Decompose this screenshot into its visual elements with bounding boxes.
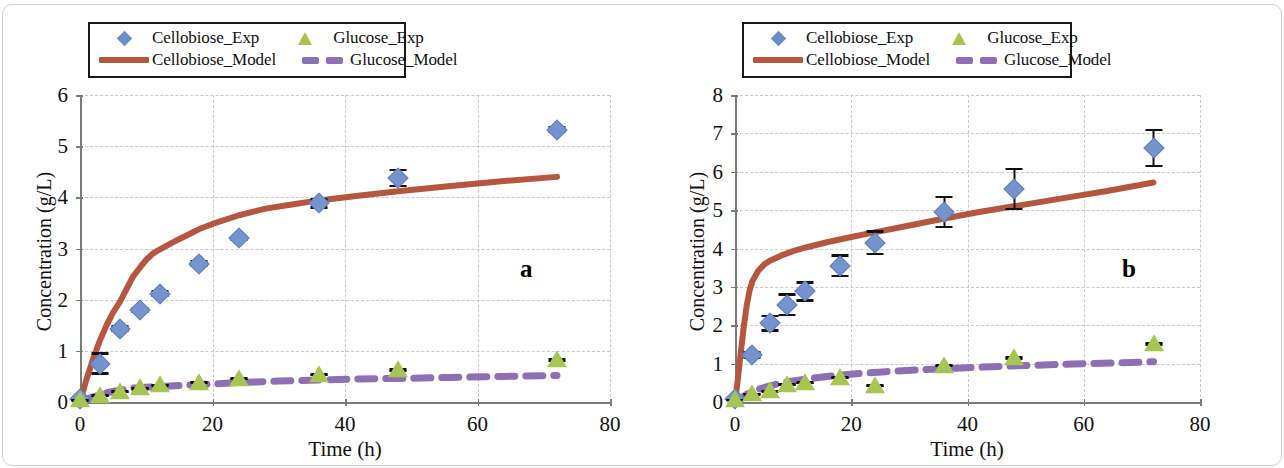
error-bar (131, 307, 148, 313)
error-bar (779, 384, 796, 386)
error-bar (744, 351, 761, 359)
y-axis-tick (76, 351, 83, 353)
gridline-vertical (1200, 95, 1201, 402)
y-axis-tick-label: 6 (34, 83, 68, 108)
error-bar (111, 325, 128, 332)
error-bar (310, 198, 327, 208)
x-axis-tick (610, 399, 612, 406)
legend-label-cellobiose-model: Cellobiose_Model (152, 50, 276, 70)
gridline-vertical (345, 95, 346, 402)
error-bar (779, 293, 796, 316)
error-bar (761, 390, 778, 392)
solid-line-icon (96, 57, 152, 63)
data-point-glucose (150, 375, 170, 392)
data-point-glucose (865, 376, 885, 393)
data-point-glucose (1004, 348, 1024, 365)
solid-line-icon (750, 57, 806, 63)
data-point-cellobiose (149, 283, 170, 304)
model-curve-cellobiose_model (80, 177, 557, 402)
data-point-glucose (777, 375, 797, 392)
gridline-horizontal (80, 197, 610, 198)
y-axis-tick (731, 133, 738, 135)
data-point-cellobiose (89, 353, 110, 374)
data-point-cellobiose (109, 318, 130, 339)
data-point-glucose (110, 382, 130, 399)
y-axis-title-a: Concentration (g/L) (33, 142, 56, 362)
error-bar (191, 382, 208, 384)
x-axis-tick-label: 0 (75, 412, 86, 437)
gridline-horizontal (735, 287, 1200, 288)
y-axis-tick (731, 287, 738, 289)
x-axis-tick-label: 0 (730, 412, 741, 437)
error-bar (231, 236, 248, 241)
plot-area-b: 012345678020406080 (735, 95, 1200, 402)
legend-label-cellobiose-exp: Cellobiose_Exp (806, 28, 913, 48)
plot-area-a: 0123456020406080 (80, 95, 610, 402)
error-bar (866, 230, 883, 255)
error-bar (744, 393, 761, 395)
panel-label-b: b (1122, 255, 1136, 283)
error-bar (549, 358, 566, 362)
data-point-glucose (830, 368, 850, 385)
error-bar (796, 281, 813, 302)
legend-label-cellobiose-exp: Cellobiose_Exp (152, 28, 259, 48)
model-curves (80, 95, 610, 402)
x-axis-title-b: Time (h) (822, 437, 1112, 462)
error-bar (191, 260, 208, 267)
y-axis-tick (76, 249, 83, 251)
x-axis-tick-label: 80 (1190, 412, 1211, 437)
legend-panel-b: Cellobiose_Exp Glucose_Exp Cellobiose_Mo… (742, 22, 1072, 78)
error-bar (151, 290, 168, 297)
data-point-cellobiose (228, 228, 249, 249)
y-axis-tick (76, 95, 83, 97)
model-curve-glucose_model (80, 375, 557, 402)
legend-entry-glucose-exp: Glucose_Exp (277, 28, 424, 48)
data-point-cellobiose (189, 253, 210, 274)
x-axis-tick (1084, 399, 1086, 406)
gridline-horizontal (735, 210, 1200, 211)
error-bar (936, 364, 953, 368)
legend-entry-glucose-model: Glucose_Model (294, 50, 457, 70)
gridline-horizontal (735, 172, 1200, 173)
gridline-horizontal (80, 300, 610, 301)
error-bar (151, 384, 168, 386)
y-axis-tick (731, 95, 738, 97)
x-axis-tick-label: 40 (335, 412, 356, 437)
data-point-glucose (388, 360, 408, 377)
error-bar (131, 387, 148, 389)
diamond-marker-icon (96, 33, 152, 44)
panel-label-a: a (520, 255, 533, 283)
gridline-vertical (478, 95, 479, 402)
x-axis-tick-label: 20 (202, 412, 223, 437)
dashed-line-icon (294, 57, 350, 64)
data-point-glucose (547, 350, 567, 367)
error-bar (390, 169, 407, 187)
y-axis-tick (731, 325, 738, 327)
data-point-glucose (760, 381, 780, 398)
y-axis-tick-label: 8 (689, 83, 723, 108)
error-bar (796, 382, 813, 384)
error-bar (1145, 342, 1162, 346)
model-curves (735, 95, 1200, 402)
dashed-line-icon (948, 57, 1004, 64)
x-axis-tick-label: 80 (600, 412, 621, 437)
legend-entry-cellobiose-exp: Cellobiose_Exp (750, 28, 913, 48)
gridline-vertical (213, 95, 214, 402)
x-axis-tick (345, 399, 347, 406)
legend-entry-glucose-exp: Glucose_Exp (931, 28, 1078, 48)
x-axis-tick (478, 399, 480, 406)
legend-entry-cellobiose-model: Cellobiose_Model (750, 50, 930, 70)
data-point-cellobiose (934, 201, 955, 222)
gridline-horizontal (735, 364, 1200, 365)
legend-row-exp: Cellobiose_Exp Glucose_Exp (96, 27, 398, 49)
legend-panel-a: Cellobiose_Exp Glucose_Exp Cellobiose_Mo… (88, 22, 406, 78)
gridline-vertical (851, 95, 852, 402)
x-axis-tick (1200, 399, 1202, 406)
y-axis-title-b: Concentration (g/L) (686, 142, 709, 362)
y-axis-tick (731, 249, 738, 251)
data-point-glucose (934, 356, 954, 373)
gridline-vertical (968, 95, 969, 402)
error-bar (866, 384, 883, 387)
x-axis-tick (80, 399, 82, 406)
error-bar (310, 373, 327, 376)
